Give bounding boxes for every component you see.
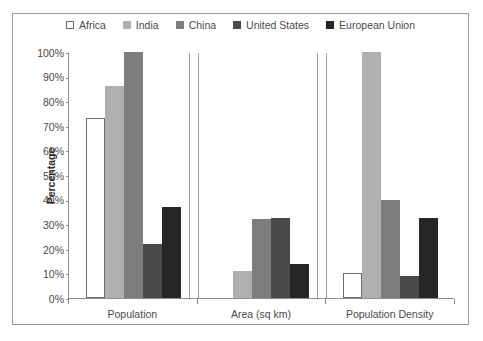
x-tick-mark	[68, 299, 69, 304]
bar	[271, 218, 290, 298]
bar	[290, 264, 309, 298]
bar	[162, 207, 181, 298]
group-separator	[317, 53, 318, 298]
plot-area: Percentage 100%90%80%70%60%50%40%30%20%1…	[68, 53, 454, 299]
legend-item-africa: Africa	[66, 20, 106, 31]
bar	[400, 276, 419, 298]
legend-swatch-icon	[326, 21, 334, 29]
legend-swatch-icon	[66, 21, 74, 29]
legend-swatch-icon	[233, 21, 241, 29]
chart-frame: AfricaIndiaChinaUnited StatesEuropean Un…	[12, 13, 469, 325]
bar	[124, 52, 143, 298]
plot-inner: 100%90%80%70%60%50%40%30%20%10%0%	[69, 53, 454, 298]
bar	[252, 219, 271, 298]
x-tick-label: Population Density	[346, 308, 434, 320]
x-tick-mark	[325, 299, 326, 304]
y-tick-label: 100%	[37, 47, 69, 58]
legend-swatch-icon	[176, 21, 184, 29]
bar-group-bars	[69, 53, 198, 298]
legend-item-india: India	[123, 20, 159, 31]
group-separator	[198, 53, 199, 298]
bar-group-bars	[198, 53, 327, 298]
legend-item-china: China	[176, 20, 216, 31]
bar	[419, 218, 438, 298]
bar-group	[198, 53, 327, 298]
legend-label: Africa	[79, 20, 106, 31]
legend-item-european-union: European Union	[326, 20, 415, 31]
bar-group	[326, 53, 455, 298]
legend-label: European Union	[339, 20, 415, 31]
x-tick-label: Population	[108, 308, 158, 320]
group-separator	[189, 53, 190, 298]
bar-group-bars	[326, 53, 455, 298]
chart-legend: AfricaIndiaChinaUnited StatesEuropean Un…	[13, 20, 468, 31]
x-tick-mark	[197, 299, 198, 304]
legend-item-united-states: United States	[233, 20, 309, 31]
legend-label: India	[136, 20, 159, 31]
bar	[143, 244, 162, 298]
bar-group	[69, 53, 198, 298]
legend-swatch-icon	[123, 21, 131, 29]
group-separator	[326, 53, 327, 298]
bar	[233, 271, 252, 298]
legend-label: United States	[246, 20, 309, 31]
legend-label: China	[189, 20, 216, 31]
x-tick-mark	[454, 299, 455, 304]
bar	[381, 200, 400, 298]
bar	[362, 52, 381, 298]
x-tick-label: Area (sq km)	[231, 308, 291, 320]
bar	[343, 273, 362, 298]
bar	[86, 118, 105, 298]
x-axis: PopulationArea (sq km)Population Density	[68, 299, 454, 329]
bar	[105, 86, 124, 298]
